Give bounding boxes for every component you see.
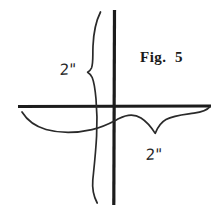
vertical-axis-line — [114, 10, 115, 205]
horizontal-dimension-label: 2" — [145, 147, 162, 163]
figure-caption: Fig. 5 — [140, 50, 183, 65]
figure-drawing — [0, 0, 223, 217]
figure-container: Fig. 5 2" 2" — [0, 0, 223, 217]
vertical-dimension-label: 2" — [59, 62, 76, 78]
horizontal-brace-curve — [22, 107, 210, 134]
